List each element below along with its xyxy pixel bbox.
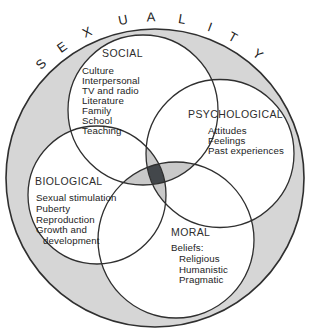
list-item: Pragmatic bbox=[179, 275, 249, 286]
moral-beliefs-label: Beliefs: bbox=[171, 243, 204, 253]
psychological-item-list: AttitudesFeelingsPast experiences bbox=[208, 126, 293, 157]
list-item: Puberty bbox=[36, 204, 126, 215]
list-item: Growth and development bbox=[36, 225, 126, 247]
moral-heading: MORAL bbox=[171, 226, 210, 238]
arc-title-letter: A bbox=[147, 10, 156, 23]
psychological-heading: PSYCHOLOGICAL bbox=[188, 108, 283, 120]
moral-beliefs-list: ReligiousHumanisticPragmatic bbox=[179, 254, 249, 286]
list-item: Teaching bbox=[82, 126, 160, 136]
list-item: Religious bbox=[179, 254, 249, 265]
sexuality-venn-diagram: SEXUALITY SOCIAL CultureInterpersonalTV … bbox=[0, 0, 310, 334]
biological-heading: BIOLOGICAL bbox=[35, 175, 103, 187]
social-item-list: CultureInterpersonalTV and radioLiteratu… bbox=[82, 66, 160, 136]
list-item: Past experiences bbox=[208, 146, 293, 156]
biological-item-list: Sexual stimulationPubertyReproductionGro… bbox=[36, 193, 126, 247]
social-heading: SOCIAL bbox=[102, 47, 143, 59]
